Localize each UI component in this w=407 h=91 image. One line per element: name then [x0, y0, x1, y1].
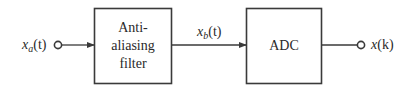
input-terminal-icon — [54, 41, 61, 48]
anti-aliasing-filter-block: Anti- aliasing filter — [95, 9, 172, 84]
output-terminal-icon — [357, 41, 364, 48]
block-label-line-2: aliasing — [111, 38, 155, 53]
input-signal-label: xa(t) — [21, 37, 47, 54]
output-signal-label: x(k) — [370, 37, 394, 53]
adc-label: ADC — [269, 38, 299, 53]
block-diagram: xa(t) Anti- aliasing filter xb(t) ADC x(… — [0, 0, 407, 91]
adc-block: ADC — [247, 9, 322, 84]
block-label-line-3: filter — [119, 56, 147, 71]
intermediate-signal-label: xb(t) — [196, 24, 222, 41]
block-label-line-1: Anti- — [118, 20, 148, 35]
